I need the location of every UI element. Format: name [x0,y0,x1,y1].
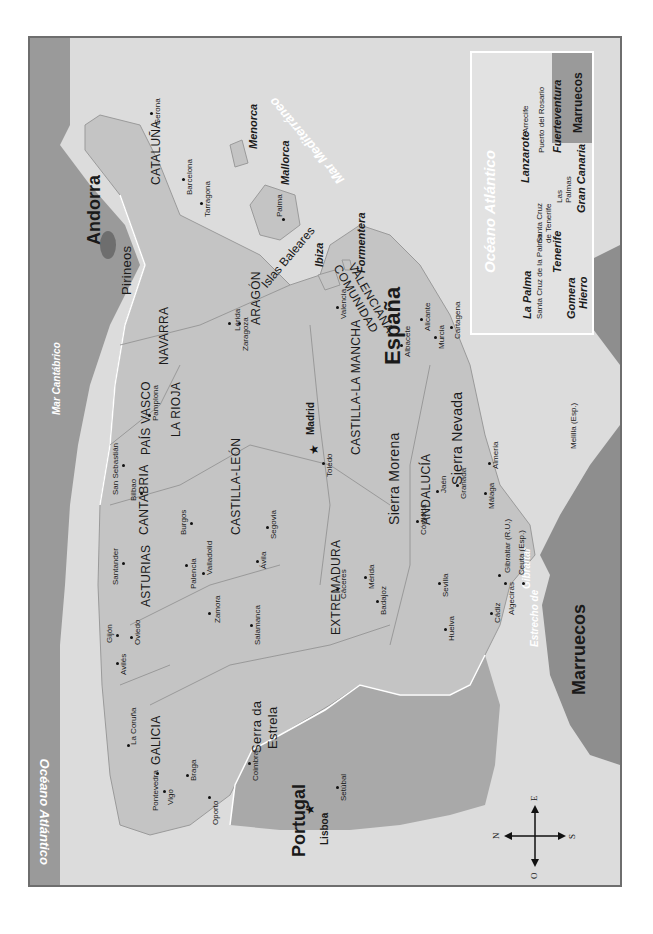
city-malaga: Málaga [488,483,496,509]
inset-label-atlantic: Océano Atlántico [482,150,497,273]
city-puerto-rosario: Puerto del Rosario [538,87,546,153]
island-lanzarote: Lanzarote [520,131,531,183]
label-mallorca: Mallorca [280,140,291,185]
map-frame: España Portugal Andorra Marruecos Océano… [28,36,622,887]
city-jaen: Jaén [440,476,448,493]
compass-east: E [530,796,539,802]
compass-north: N [492,833,501,840]
city-setubal: Setúbal [340,774,348,801]
island-la-palma: La Palma [522,271,533,319]
region-navarra: NAVARRA [158,307,170,365]
region-castilla-leon: CASTILLA-LEÓN [230,438,242,535]
city-santa-cruz-palma: Santa Cruz de la Palma [536,235,544,320]
city-avila: Ávila [260,552,268,569]
label-morocco: Marruecos [570,604,588,695]
city-cadiz: Cádiz [494,603,502,623]
region-cantabria: CANTABRIA [138,465,150,536]
compass-arrows-icon [500,801,570,871]
city-valladolid: Valladolid [206,541,214,575]
city-burgos: Burgos [180,510,188,535]
city-algeciras: Algeciras [508,582,516,615]
city-gijon: Gijón [106,624,114,643]
city-pamplona: Pamplona [152,385,160,421]
city-almeria: Almería [492,441,500,469]
city-palma: Palma [276,194,284,217]
city-albacete: Albacete [404,326,412,357]
island-gran-canaria: Gran Canaria [576,144,587,213]
city-barcelona: Barcelona [186,159,194,195]
label-serra-estrela-1: Serra da [250,701,263,753]
city-tarragona: Tarragona [204,181,212,217]
compass-west: O [530,873,539,880]
city-coimbra: Coimbra [252,751,260,781]
region-cataluna: CATALUÑA [150,120,162,185]
city-alicante: Alicante [424,303,432,331]
city-segovia: Segovia [270,510,278,539]
city-oviedo: Oviedo [134,620,142,645]
city-oporto: Oporto [212,801,220,825]
city-las-palmas-2: Palmas [565,176,573,203]
city-salamanca: Salamanca [254,605,262,645]
region-la-rioja: LA RIOJA [170,382,182,437]
city-braga: Braga [190,760,198,781]
label-menorca: Menorca [248,104,259,149]
city-melilla: Melilla (Esp.) [570,403,578,449]
city-zamora: Zamora [214,595,222,623]
city-pontevedra: Pontevedra [152,770,160,811]
city-cordoba: Córdoba [420,504,428,535]
region-galicia: GALICIA [150,716,162,765]
island-hierro: Hierro [578,277,589,309]
city-arrecife: Arrecife [522,105,530,133]
city-toledo: Toledo [326,453,334,477]
city-merida: Mérida [368,565,376,589]
city-valencia: Valencia [340,289,348,319]
label-pirineos: Pirineos [120,246,133,295]
city-cartagena: Cartagena [454,302,462,339]
compass-south: S [568,834,577,839]
city-caceres: Cáceres [340,569,348,599]
label-atlantic: Océano Atlántico [38,759,51,865]
city-santander: Santander [112,548,120,585]
city-aviles: Avilés [120,654,128,675]
menorca-shape [230,140,248,167]
island-gomera: Gomera [566,277,577,319]
label-serra-estrela-2: Estrela [266,706,279,749]
city-la-coruna: La Coruña [130,708,138,745]
city-gerona: Gerona [154,98,162,125]
label-andorra: Andorra [85,175,103,245]
label-formentera: Formentera [356,212,367,273]
city-badajoz: Badajoz [380,586,388,615]
capital-star-icon: ★ [304,804,316,815]
city-zaragoza: Zaragoza [242,317,250,351]
city-lisboa: Lisboa [320,813,330,845]
canary-islands-inset: Océano Atlántico Marruecos La Palma Sant… [470,51,594,335]
island-fuerteventura: Fuerteventura [552,80,563,153]
label-strait-1: Estrecho de [530,590,540,647]
label-cantabrian-sea: Mar Cantábrico [52,342,62,415]
city-bilbao: Bilbao [130,479,138,501]
city-granada: Granada [460,468,468,499]
label-portugal: Portugal [290,784,308,857]
city-ceuta: Ceuta (Esp.) [518,530,526,575]
city-sevilla: Sevilla [442,573,450,597]
island-tenerife: Tenerife [552,231,563,273]
label-sierra-morena: Sierra Morena [387,432,401,525]
capital-star-icon: ★ [308,444,320,455]
city-santa-cruz-tenerife-1: Santa Cruz [536,203,544,243]
label-ibiza: Ibiza [314,243,325,267]
morocco-landmass [540,425,620,765]
city-vigo: Vigo [167,789,175,805]
region-castilla-la-mancha: CASTILLA-LA MANCHA [350,320,362,455]
inset-label-morocco: Marruecos [572,72,584,133]
city-madrid: Madrid [306,402,316,435]
city-palencia: Palencia [190,558,198,589]
compass-rose: N S E O [500,801,570,871]
city-san-sebastian: San Sebastián [112,443,120,495]
map-canvas: España Portugal Andorra Marruecos Océano… [30,38,620,885]
city-santa-cruz-tenerife-2: de Tenerife [545,204,553,243]
region-asturias: ASTURIAS [140,545,152,607]
city-huelva: Huelva [448,616,456,641]
city-murcia: Murcia [438,325,446,349]
city-gibraltar: Gibraltar (R.U.) [504,519,512,573]
city-las-palmas-1: Las [556,190,564,203]
